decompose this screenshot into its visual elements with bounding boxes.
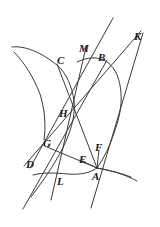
point-label-G: G [43,138,51,149]
point-label-A: A [92,171,99,182]
point-label-E: E [79,154,86,165]
point-label-K: K [134,31,141,42]
point-label-H: H [59,108,68,119]
point-label-M: M [79,43,89,54]
point-label-D: D [26,159,34,170]
curve-left-hyperbola-branch [12,47,74,197]
point-label-C: C [57,55,64,66]
point-label-L: L [57,176,64,187]
point-label-B: B [98,52,105,63]
curve-left-branch-lower-arm [14,52,45,140]
geometry-figure: C M B K H G F E D A L [0,0,160,227]
curve-right-branch-upper-arm [77,58,121,133]
conic-curves-group [12,47,137,197]
point-label-F: F [95,142,102,153]
curve-arc-tail-right-of-A [97,168,137,181]
